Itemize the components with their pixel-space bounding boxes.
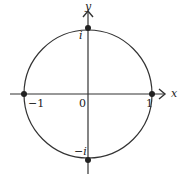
pos-i-label: i	[79, 29, 83, 42]
neg-i-label: −i	[74, 145, 87, 158]
y-axis-label: y	[84, 0, 92, 13]
pos-one-label: 1	[146, 97, 153, 110]
origin-label: 0	[79, 97, 86, 110]
neg-one-label: −1	[28, 97, 44, 110]
point-i	[85, 25, 91, 31]
unit-circle-diagram: x y 0 1 −1 i −i	[0, 0, 186, 181]
x-axis-label: x	[171, 87, 178, 100]
point-neg-one	[21, 91, 27, 97]
